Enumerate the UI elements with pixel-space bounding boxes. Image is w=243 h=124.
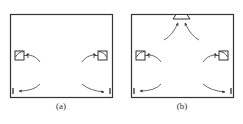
sound-arrow-icon: [150, 55, 161, 62]
sound-arrow-icon: [82, 84, 104, 92]
sound-arrow-icon: [140, 84, 161, 91]
panel-b-caption: (b): [167, 101, 197, 111]
room-outline: [11, 15, 113, 98]
speaker-front-right-icon: [215, 51, 228, 60]
room-outline: [132, 15, 234, 98]
sound-arrow-icon: [164, 23, 178, 40]
speaker-center-icon: [173, 15, 190, 20]
panel-b: [132, 15, 234, 98]
sound-arrow-icon: [203, 55, 214, 62]
speaker-front-right-icon: [94, 51, 107, 60]
panel-a-caption: (a): [46, 101, 76, 111]
sound-arrow-icon: [29, 55, 40, 62]
diagram-canvas: [0, 0, 243, 124]
panel-a: [11, 15, 113, 98]
sound-arrow-icon: [185, 23, 199, 40]
sound-arrow-icon: [203, 84, 225, 92]
speaker-front-left-icon: [15, 51, 28, 60]
sound-arrow-icon: [82, 55, 93, 62]
sound-arrow-icon: [19, 84, 40, 91]
speaker-front-left-icon: [136, 51, 149, 60]
